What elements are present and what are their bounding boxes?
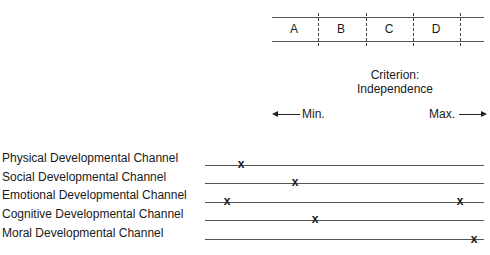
scale-divider xyxy=(460,13,461,46)
max-arrow-line xyxy=(459,114,482,115)
x-mark-icon: x xyxy=(290,176,300,188)
scale-bottom-line xyxy=(272,41,484,42)
channel-line xyxy=(205,202,484,203)
criterion-title: Criterion: Independence xyxy=(335,68,455,96)
channel-label: Physical Developmental Channel xyxy=(2,151,178,165)
max-label: Max. xyxy=(429,107,455,121)
channel-line xyxy=(205,239,484,240)
segment-b-label: B xyxy=(331,22,351,36)
channel-label: Cognitive Developmental Channel xyxy=(2,207,183,221)
criterion-line2: Independence xyxy=(335,82,455,96)
min-arrow-line xyxy=(277,114,300,115)
right-arrow-icon xyxy=(481,111,487,117)
segment-d-label: D xyxy=(426,22,446,36)
x-mark-icon: x xyxy=(236,158,246,170)
scale-top-line xyxy=(272,17,484,18)
min-label: Min. xyxy=(302,107,325,121)
channel-label: Moral Developmental Channel xyxy=(2,226,163,240)
x-mark-icon: x xyxy=(469,233,479,245)
channel-line xyxy=(205,183,484,184)
channel-label: Emotional Developmental Channel xyxy=(2,188,187,202)
channel-line xyxy=(205,220,484,221)
scale-divider xyxy=(413,13,414,46)
criterion-line1: Criterion: xyxy=(335,68,455,82)
segment-c-label: C xyxy=(379,22,399,36)
channel-label: Social Developmental Channel xyxy=(2,170,166,184)
scale-divider xyxy=(318,13,319,46)
scale-divider xyxy=(366,13,367,46)
x-mark-icon: x xyxy=(310,213,320,225)
channel-line xyxy=(205,165,484,166)
x-mark-icon: x xyxy=(455,195,465,207)
segment-a-label: A xyxy=(284,22,304,36)
x-mark-icon: x xyxy=(222,195,232,207)
